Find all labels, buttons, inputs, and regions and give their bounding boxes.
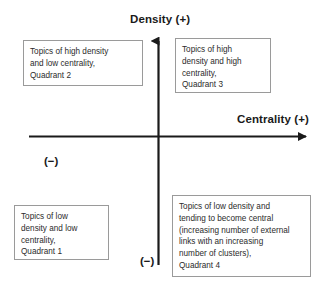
quadrant-3-box: Topics of high density and high centrali…: [175, 38, 271, 93]
density-axis-label: Density (+): [130, 13, 190, 25]
quadrant-2-box: Topics of high density and low centralit…: [23, 40, 143, 86]
quadrant-1-box: Topics of low density and low centrality…: [14, 205, 109, 260]
quadrant-4-box: Topics of low density and tending to bec…: [172, 195, 311, 277]
centrality-negative-marker: (−): [44, 155, 58, 167]
density-negative-marker: (−): [140, 255, 154, 267]
diagram-canvas: Density (+) Centrality (+) (−) (−) Topic…: [0, 0, 333, 297]
centrality-axis-label: Centrality (+): [237, 113, 309, 125]
